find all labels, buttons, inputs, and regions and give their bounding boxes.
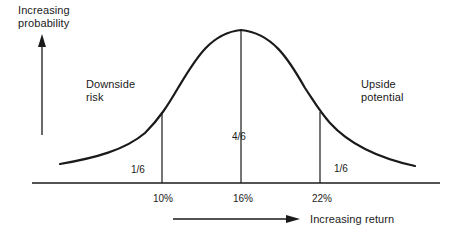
distribution-diagram: Increasing probability Downside risk Ups… bbox=[0, 0, 458, 236]
upside-potential-line2: potential bbox=[361, 91, 404, 104]
arrow-up-icon bbox=[38, 34, 46, 47]
downside-risk-line1: Downside bbox=[86, 78, 135, 91]
tick-16: 16% bbox=[233, 193, 253, 205]
tick-22: 22% bbox=[312, 193, 332, 205]
arrow-right-icon bbox=[286, 215, 300, 223]
return-axis-arrow bbox=[173, 215, 300, 223]
downside-risk-label: Downside risk bbox=[86, 78, 135, 104]
left-fraction: 1/6 bbox=[131, 164, 145, 176]
x-axis-label: Increasing return bbox=[310, 213, 394, 226]
diagram-graphics bbox=[0, 0, 458, 236]
tick-10: 10% bbox=[153, 193, 173, 205]
center-fraction: 4/6 bbox=[232, 131, 246, 143]
y-axis-label: Increasing probability bbox=[18, 4, 70, 30]
downside-risk-line2: risk bbox=[86, 91, 135, 104]
probability-axis-arrow bbox=[38, 34, 46, 135]
y-axis-label-line2: probability bbox=[18, 17, 70, 30]
upside-potential-label: Upside potential bbox=[361, 78, 404, 104]
right-fraction: 1/6 bbox=[334, 163, 348, 175]
y-axis-label-line1: Increasing bbox=[18, 4, 70, 17]
upside-potential-line1: Upside bbox=[361, 78, 404, 91]
